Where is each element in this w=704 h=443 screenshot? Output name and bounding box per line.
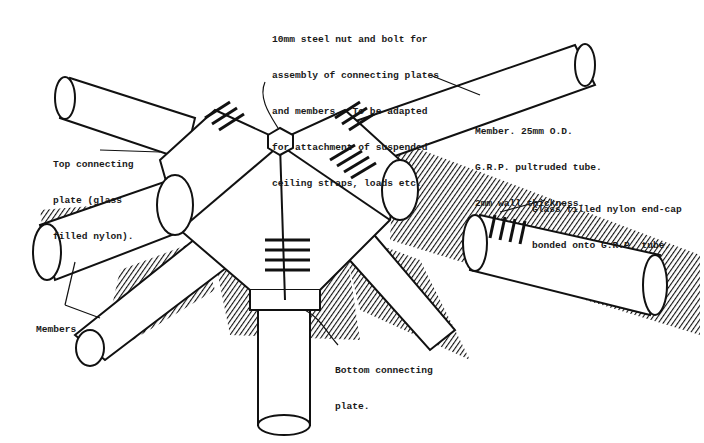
annotation-line: plate. — [335, 401, 433, 413]
annotation-line: filled nylon). — [53, 231, 134, 243]
tube-front-bottom — [258, 300, 310, 435]
annotation-line: Bottom connecting — [335, 365, 433, 377]
annotation-line: Members — [36, 324, 76, 336]
annotation-line: and members. To be adapted — [272, 106, 439, 118]
annotation-end-cap: Glass filled nylon end-cap bonded onto G… — [532, 180, 682, 264]
annotation-top-plate: Top connecting plate (glass filled nylon… — [53, 135, 134, 255]
annotation-line: ceiling straps, loads etc. — [272, 178, 439, 190]
annotation-line: 10mm steel nut and bolt for — [272, 34, 439, 46]
annotation-bolt: 10mm steel nut and bolt for assembly of … — [272, 10, 439, 202]
annotation-line: Member. 25mm O.D. — [475, 126, 602, 138]
annotation-members: Members — [36, 300, 76, 348]
diagram-canvas: 10mm steel nut and bolt for assembly of … — [0, 0, 704, 443]
annotation-line: Glass filled nylon end-cap — [532, 204, 682, 216]
annotation-line: G.R.P. pultruded tube. — [475, 162, 602, 174]
annotation-bottom-plate: Bottom connecting plate. — [335, 341, 433, 425]
annotation-line: Top connecting — [53, 159, 134, 171]
annotation-line: plate (glass — [53, 195, 134, 207]
annotation-line: bonded onto G.R.P. tube. — [532, 240, 682, 252]
annotation-line: for attachment of suspended — [272, 142, 439, 154]
annotation-line: assembly of connecting plates — [272, 70, 439, 82]
